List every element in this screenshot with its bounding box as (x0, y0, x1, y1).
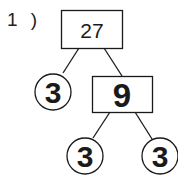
root-node-value: 27 (80, 19, 103, 42)
right-right-child-value: 3 (152, 140, 169, 173)
left-child-value: 3 (45, 76, 62, 109)
edge-nine-right (135, 112, 152, 139)
edge-root-left (63, 48, 79, 73)
right-child-value: 9 (113, 77, 131, 114)
edge-nine-left (93, 112, 110, 138)
edge-root-right (104, 48, 122, 76)
right-left-child-value: 3 (77, 140, 94, 173)
factor-tree-diagram: 27 3 9 3 3 (0, 0, 178, 179)
